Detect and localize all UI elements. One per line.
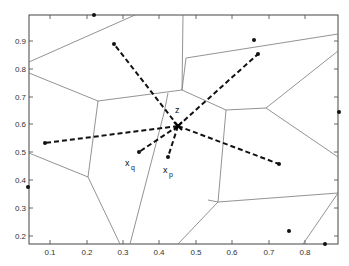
y-axis-ticks	[29, 41, 338, 236]
y-tick-label: 0.9	[15, 37, 27, 46]
voronoi-diagram: 0.1 0.2 0.3 0.4 0.5 0.6 0.7 0.8 0.9 0.8 …	[0, 0, 349, 266]
voronoi-edges	[29, 15, 338, 244]
x-tick-label: 0.4	[153, 248, 165, 257]
label-xq: x	[125, 158, 130, 168]
dashed-segments	[45, 44, 279, 164]
x-tick-label: 0.1	[44, 248, 56, 257]
y-tick-label: 0.7	[15, 93, 27, 102]
x-tick-label: 0.5	[190, 248, 202, 257]
label-z: z	[175, 105, 180, 115]
point-xq	[137, 150, 141, 154]
x-tick-label: 0.3	[117, 248, 129, 257]
y-tick-label: 0.6	[15, 120, 27, 129]
point-xp	[166, 155, 170, 159]
x-tick-label: 0.8	[299, 248, 311, 257]
x-tick-label: 0.7	[263, 248, 275, 257]
y-tick-label: 0.5	[15, 148, 27, 157]
y-tick-label: 0.2	[15, 232, 27, 241]
label-xp: x	[163, 165, 168, 175]
label-xp-subscript: p	[169, 171, 173, 179]
y-tick-labels: 0.9 0.8 0.7 0.6 0.5 0.4 0.3 0.2	[15, 37, 27, 241]
y-tick-label: 0.3	[15, 204, 27, 213]
y-tick-label: 0.8	[15, 65, 27, 74]
x-tick-labels: 0.1 0.2 0.3 0.4 0.5 0.6 0.7 0.8	[44, 248, 311, 257]
y-tick-label: 0.4	[15, 176, 27, 185]
voronoi-sites	[26, 13, 341, 246]
x-tick-label: 0.2	[81, 248, 93, 257]
plot-frame	[29, 15, 338, 244]
label-xq-subscript: q	[131, 164, 135, 172]
x-tick-label: 0.6	[226, 248, 238, 257]
